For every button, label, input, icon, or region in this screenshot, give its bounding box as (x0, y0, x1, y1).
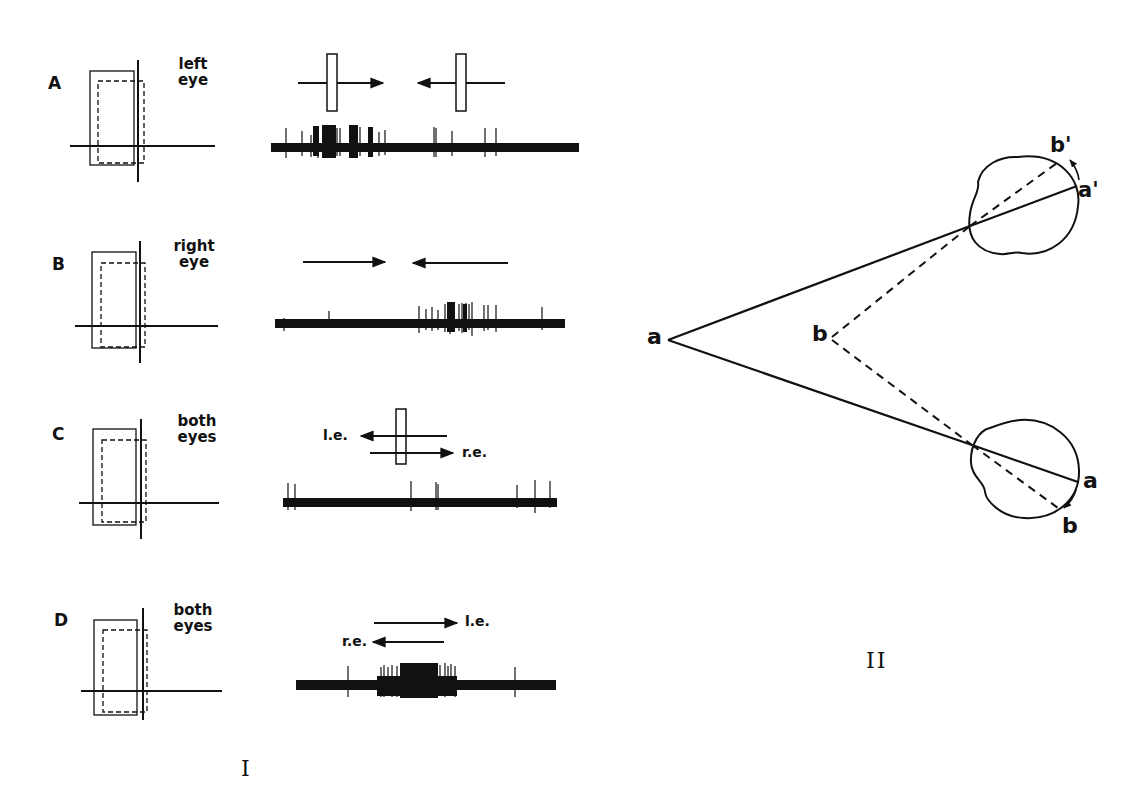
eye-label-line2: eyes (176, 429, 218, 445)
row-a-letter: A (48, 73, 61, 93)
part-ii-label: II (866, 648, 887, 673)
point-b-lower-label: b (1062, 515, 1078, 537)
figure-drawing (0, 0, 1140, 806)
eye-label-line2: eye (172, 254, 216, 270)
row-b-spike-train (275, 302, 565, 336)
eye-label-line1: both (172, 602, 214, 618)
eye-label-line1: both (176, 413, 218, 429)
eye-label-line1: left (173, 56, 213, 72)
point-a-prime-label: a' (1078, 179, 1099, 201)
part-i-label: I (241, 756, 252, 781)
row-d-eye-label: both eyes (172, 602, 214, 634)
point-a-lower-label: a (1083, 470, 1098, 492)
row-d-stimulus (373, 623, 457, 642)
row-c-letter: C (52, 424, 64, 444)
row-d-left-eye-label: l.e. (465, 613, 490, 629)
row-c-stimulus (361, 409, 453, 464)
lower-eyeball (971, 420, 1079, 518)
row-d-letter: D (54, 610, 68, 630)
eye-label-line2: eyes (172, 618, 214, 634)
row-d-spike-train (296, 663, 556, 698)
row-b-stimulus (303, 262, 508, 263)
row-b-letter: B (52, 254, 65, 274)
row-c-right-eye-label: r.e. (462, 444, 487, 460)
eye-label-line2: eye (173, 72, 213, 88)
row-c-spike-train (283, 480, 557, 513)
point-b-prime-label: b' (1050, 134, 1071, 156)
row-a-eye-label: left eye (173, 56, 213, 88)
part-ii-geometry (668, 156, 1079, 518)
row-c-left-eye-label: l.e. (323, 427, 348, 443)
figure: A left eye B right eye C both eyes D bot… (0, 0, 1140, 806)
row-d-right-eye-label: r.e. (342, 633, 367, 649)
row-a-spike-train (271, 125, 579, 158)
point-b-label: b (812, 323, 828, 345)
point-a-label: a (647, 326, 662, 348)
row-a-stimulus (298, 54, 505, 111)
eye-label-line1: right (172, 238, 216, 254)
row-b-eye-label: right eye (172, 238, 216, 270)
row-c-eye-label: both eyes (176, 413, 218, 445)
